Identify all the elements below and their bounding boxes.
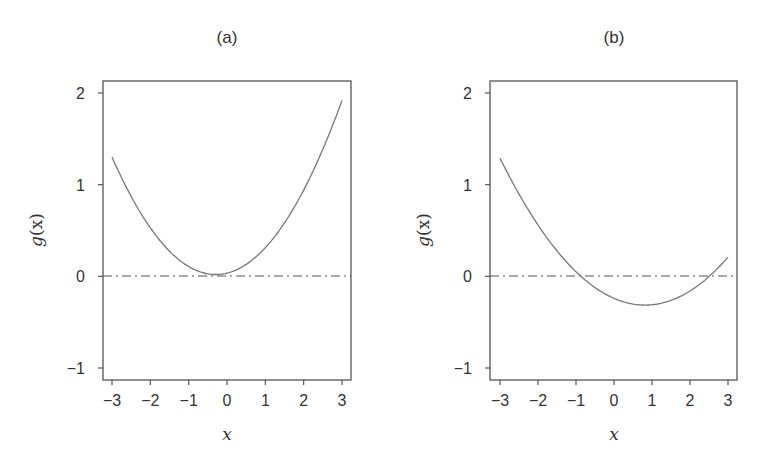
y-axis-label: g(x) <box>413 213 433 247</box>
x-tick-label: −1 <box>180 392 198 409</box>
g-curve <box>500 158 728 305</box>
x-tick-label: 0 <box>610 392 619 409</box>
y-axis-label: g(x) <box>26 213 46 247</box>
panel-a: (a) −1012 −3−2−10123 g(x) x <box>26 28 351 444</box>
x-tick-label: −3 <box>491 392 509 409</box>
x-tick-label: 2 <box>686 392 695 409</box>
y-tick-label: 0 <box>76 268 85 285</box>
y-tick-label: −1 <box>67 360 85 377</box>
x-tick-label: 2 <box>299 392 308 409</box>
x-axis-label: x <box>609 424 619 444</box>
x-tick-label: −2 <box>141 392 159 409</box>
panel-title: (b) <box>604 28 625 47</box>
x-axis: −3−2−10123 <box>103 380 347 409</box>
x-tick-label: −3 <box>103 392 121 409</box>
y-axis: −1012 <box>454 85 490 377</box>
y-axis: −1012 <box>67 85 103 377</box>
y-tick-label: 2 <box>463 85 472 102</box>
x-tick-label: 0 <box>223 392 232 409</box>
y-tick-label: 0 <box>463 268 472 285</box>
plot-frame <box>490 81 737 380</box>
panel-b: (b) −1012 −3−2−10123 g(x) x <box>413 28 737 444</box>
y-tick-label: 1 <box>76 177 85 194</box>
x-axis: −3−2−10123 <box>491 380 733 409</box>
y-tick-label: −1 <box>454 360 472 377</box>
y-tick-label: 2 <box>76 85 85 102</box>
plot-frame <box>103 81 351 380</box>
y-tick-label: 1 <box>463 177 472 194</box>
g-curve <box>112 100 342 274</box>
x-tick-label: 1 <box>648 392 657 409</box>
x-tick-label: 3 <box>338 392 347 409</box>
x-tick-label: 1 <box>261 392 270 409</box>
figure: (a) −1012 −3−2−10123 g(x) x (b) −1012 −3… <box>0 0 759 470</box>
x-axis-label: x <box>222 424 232 444</box>
x-tick-label: −1 <box>567 392 585 409</box>
x-tick-label: −2 <box>529 392 547 409</box>
panel-title: (a) <box>217 28 238 47</box>
x-tick-label: 3 <box>724 392 733 409</box>
